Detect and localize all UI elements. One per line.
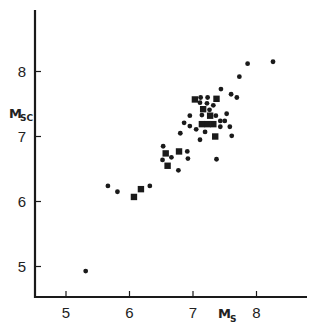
y-tick-label: 7 — [18, 128, 26, 145]
circle-marker — [83, 269, 88, 274]
circle-marker — [160, 158, 165, 163]
square-marker — [162, 150, 168, 156]
x-axis-label: M S — [218, 306, 236, 324]
square-marker — [204, 121, 210, 127]
circle-marker — [169, 155, 174, 160]
x-tick-label: 8 — [252, 304, 260, 321]
circle-marker — [147, 184, 152, 189]
square-marker — [200, 106, 206, 112]
circle-marker — [213, 113, 218, 118]
x-axis-label-sub: S — [230, 314, 236, 324]
x-tick-label: 6 — [125, 304, 133, 321]
circle-marker — [178, 131, 183, 136]
y-axis-label: M SC — [9, 106, 33, 123]
scatter-plot: 5678 5678 M SC M S — [0, 0, 315, 332]
circle-marker — [106, 184, 111, 189]
circle-marker — [207, 107, 212, 112]
square-marker — [212, 133, 218, 139]
circle-marker — [185, 149, 190, 154]
square-marker — [213, 96, 219, 102]
circle-marker — [176, 168, 181, 173]
circle-marker — [218, 119, 223, 124]
x-tick-label: 5 — [62, 304, 70, 321]
circle-marker — [115, 189, 120, 194]
circle-marker — [182, 120, 187, 125]
circle-marker — [187, 113, 192, 118]
circle-marker — [245, 61, 250, 66]
square-marker — [164, 163, 170, 169]
circle-marker — [198, 137, 203, 142]
y-ticks: 5678 — [18, 63, 41, 275]
circle-marker — [229, 133, 234, 138]
circle-marker — [186, 156, 191, 161]
circle-marker — [211, 103, 216, 108]
circle-marker — [229, 92, 234, 97]
square-marker — [176, 148, 182, 154]
circle-marker — [199, 113, 204, 118]
circle-marker — [203, 130, 208, 135]
circle-marker — [219, 87, 224, 92]
square-marker — [210, 121, 216, 127]
y-tick-label: 5 — [18, 258, 26, 275]
circle-marker — [198, 95, 203, 100]
circle-marker — [224, 111, 229, 116]
circle-marker — [218, 124, 223, 129]
y-tick-label: 6 — [18, 193, 26, 210]
square-marker — [192, 96, 198, 102]
x-axis-label-main: M — [218, 306, 231, 321]
square-marker — [138, 186, 144, 192]
circle-marker — [234, 95, 239, 100]
y-tick-label: 8 — [18, 63, 26, 80]
circle-marker — [222, 119, 227, 124]
circle-marker — [205, 95, 210, 100]
square-marker — [207, 113, 213, 119]
circle-marker — [194, 127, 199, 132]
data-points — [83, 59, 275, 273]
circle-marker — [227, 124, 232, 129]
circle-marker — [161, 144, 166, 149]
x-tick-label: 7 — [189, 304, 197, 321]
square-marker — [131, 194, 137, 200]
circle-marker — [237, 74, 242, 79]
circle-marker — [198, 100, 203, 105]
circle-marker — [271, 59, 276, 64]
axes — [34, 10, 307, 298]
square-marker — [199, 121, 205, 127]
circle-marker — [205, 101, 210, 106]
circle-marker — [187, 124, 192, 129]
y-axis-label-sub: SC — [20, 113, 33, 123]
circle-marker — [214, 157, 219, 162]
